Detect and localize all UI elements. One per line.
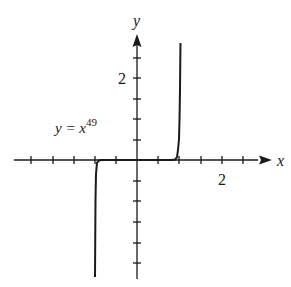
x-axis-label: x <box>276 152 284 169</box>
equation-label: y = x49 <box>53 116 97 136</box>
equation-exponent: 49 <box>86 116 98 128</box>
y-axis <box>133 44 141 279</box>
x-tick-label-2: 2 <box>218 171 226 188</box>
equation-base: y = x <box>53 120 86 136</box>
y-tick-label-2: 2 <box>118 70 126 87</box>
x-axis-arrow-icon <box>259 156 272 165</box>
plot: y x 2 2 y = x49 <box>0 0 291 287</box>
y-axis-label: y <box>131 12 141 30</box>
